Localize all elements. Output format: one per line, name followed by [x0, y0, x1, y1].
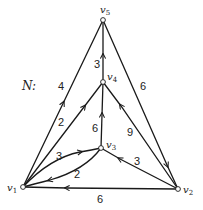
- edge-v1-v3: 3: [23, 148, 101, 187]
- edge-v2-v4: 9: [103, 82, 178, 189]
- svg-text:v1: v1: [7, 182, 17, 195]
- edge-v2-v1: 6: [23, 187, 178, 205]
- edge-weight: 3: [56, 150, 62, 162]
- svg-text:v3: v3: [106, 139, 116, 152]
- svg-text:v2: v2: [183, 184, 193, 197]
- network-label: N:: [21, 79, 36, 93]
- edge-weight: 2: [58, 116, 64, 128]
- node-v5: v5: [100, 4, 110, 22]
- edge-weight: 9: [127, 126, 133, 138]
- edge-weight: 6: [97, 193, 103, 205]
- edge-weight: 6: [140, 80, 146, 92]
- svg-text:v5: v5: [100, 4, 110, 17]
- edge-v2-v3: 3: [101, 148, 178, 189]
- edge-v1-v5: 4: [23, 20, 103, 187]
- edge-v5-v2: 6: [103, 20, 178, 189]
- network-diagram: N: 4 6 3 2 6 9 3 2 3: [0, 0, 203, 210]
- node-v1: v1: [7, 182, 25, 195]
- edge-weight: 4: [58, 80, 64, 92]
- edge-weight: 2: [74, 168, 80, 180]
- edge-v1-v4: 2: [23, 82, 103, 187]
- svg-text:v4: v4: [107, 71, 118, 84]
- edge-weight: 3: [134, 155, 140, 167]
- edge-weight: 6: [92, 122, 98, 134]
- edge-v3-v4: 6: [92, 82, 103, 148]
- edge-weight: 3: [94, 58, 100, 70]
- node-v2: v2: [176, 184, 194, 197]
